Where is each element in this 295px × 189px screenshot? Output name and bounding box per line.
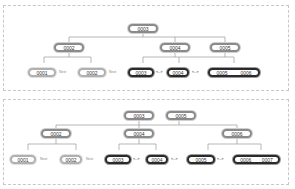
edge-label: <--> — [192, 70, 198, 74]
node-key: 0005 — [173, 113, 188, 119]
tree-edges — [4, 6, 290, 92]
node-key: 0007 — [260, 157, 275, 163]
leaf-node: 0001 — [10, 155, 36, 164]
edge-label: <--> — [171, 157, 177, 161]
edge-label: <--> — [217, 157, 223, 161]
node-key: 0002 — [63, 157, 78, 163]
node-key: 0005 — [217, 45, 232, 51]
leaf-node: 0002 — [78, 68, 106, 77]
root-node: 0003 — [124, 111, 154, 120]
root-node: 0003 — [128, 24, 158, 33]
node-key: 0004 — [131, 131, 146, 137]
node-key: 0003 — [110, 157, 125, 163]
node-key: 0004 — [167, 45, 182, 51]
leaf-node: 0004 — [167, 68, 189, 77]
node-key: 0006 — [238, 70, 253, 76]
node-key: 0001 — [34, 70, 49, 76]
panel-before: 0003 0002 0004 0005 0001 Next 0002 Next … — [3, 5, 289, 91]
node-key: 0004 — [170, 70, 185, 76]
internal-node: 0004 — [160, 43, 190, 52]
leaf-node: 0006 0007 — [233, 155, 280, 164]
node-key: 0003 — [131, 113, 146, 119]
node-key: 0006 — [238, 157, 253, 163]
internal-node: 0006 — [222, 129, 252, 138]
leaf-node: 0001 — [28, 68, 56, 77]
edge-label: <--> — [133, 157, 139, 161]
node-key: 0004 — [149, 157, 164, 163]
node-key: 0003 — [133, 70, 148, 76]
internal-node: 0002 — [41, 129, 71, 138]
edge-label: Next — [109, 70, 116, 74]
edge-label: <--> — [156, 70, 162, 74]
node-key: 0002 — [84, 70, 99, 76]
edge-label: Next — [59, 70, 66, 74]
edge-label: Next — [86, 157, 93, 161]
leaf-node: 0004 — [146, 155, 168, 164]
leaf-node: 0003 — [105, 155, 131, 164]
node-key: 0001 — [15, 157, 30, 163]
node-key: 0005 — [193, 157, 208, 163]
internal-node: 0004 — [124, 129, 154, 138]
leaf-node: 0003 — [128, 68, 154, 77]
leaf-node: 0002 — [60, 155, 82, 164]
node-key: 0003 — [135, 26, 150, 32]
node-key: 0002 — [48, 131, 63, 137]
leaf-node: 0005 0006 — [208, 68, 260, 77]
internal-node: 0005 — [210, 43, 240, 52]
root-node: 0005 — [166, 111, 196, 120]
edge-label: Next — [40, 157, 47, 161]
panel-after: 0003 0005 0002 0004 0006 0001 Next 0002 … — [3, 99, 289, 185]
node-key: 0006 — [229, 131, 244, 137]
leaf-node: 0005 — [187, 155, 215, 164]
node-key: 0002 — [61, 45, 76, 51]
node-key: 0005 — [214, 70, 229, 76]
internal-node: 0002 — [54, 43, 84, 52]
